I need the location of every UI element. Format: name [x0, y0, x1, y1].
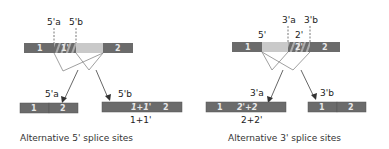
site-label-5a: 5'a	[47, 17, 61, 27]
svg-text:1: 1	[31, 104, 37, 113]
product-3a: 1 2'+2 2+2'	[206, 102, 286, 125]
site-label-3a: 3'a	[282, 15, 296, 25]
svg-text:1+1': 1+1'	[131, 103, 151, 112]
svg-text:2'+2: 2'+2	[237, 103, 258, 112]
intron-region	[76, 43, 103, 53]
site-label-5b: 5'b	[69, 17, 83, 27]
exon-1-label: 1	[245, 43, 251, 52]
arrow-label-3b: 3'b	[320, 88, 334, 98]
exon-2-label: 2	[322, 43, 328, 52]
site-label-2prime: 2'	[295, 30, 303, 40]
product-5b: 1+1' 2 1+1'	[102, 102, 182, 125]
svg-text:2: 2	[163, 103, 169, 112]
arrowhead-5a	[61, 96, 67, 103]
exon-1-label: 1	[37, 44, 43, 53]
svg-text:2: 2	[348, 103, 354, 112]
pre-mrna-right: 1 2' 2	[232, 42, 340, 52]
arrow-5b	[96, 70, 108, 98]
product-3b: 1 2	[308, 102, 366, 112]
arrow-3b	[301, 70, 314, 97]
exon-2-label: 2	[115, 44, 121, 53]
splice-line-5b	[76, 53, 103, 70]
caption-5prime: Alternative 5' splice sites	[20, 133, 133, 143]
arrow-5a	[64, 70, 78, 100]
site-label-3b: 3'b	[304, 15, 318, 25]
site-label-5prime: 5'	[258, 30, 266, 40]
annotation-1plus1prime: 1+1'	[130, 115, 151, 125]
arrowhead-5b	[105, 94, 111, 101]
caption-3prime: Alternative 3' splice sites	[228, 133, 341, 143]
product-5a: 1 2	[20, 103, 78, 113]
alt-region-label: 2'	[295, 43, 303, 52]
svg-text:1: 1	[319, 103, 325, 112]
svg-text:1: 1	[217, 103, 223, 112]
splicing-diagram: 5'a 5'b 1 1' 2 5'a 5'b 1 2	[0, 0, 389, 149]
annotation-2plus2prime: 2+2'	[241, 115, 262, 125]
intron-region	[262, 42, 288, 52]
arrow-label-5b: 5'b	[118, 89, 132, 99]
arrowhead-3b	[311, 93, 317, 100]
arrow-3a	[270, 70, 283, 100]
left-panel: 5'a 5'b 1 1' 2 5'a 5'b 1 2	[20, 17, 182, 143]
arrow-label-5a: 5'a	[45, 89, 59, 99]
pre-mrna-left: 1 1' 2	[24, 43, 133, 53]
arrow-label-3a: 3'a	[250, 88, 264, 98]
alt-region-label: 1'	[61, 44, 69, 53]
right-panel: 3'a 3'b 5' 2' 1 2' 2 3'a 3'b 1 2'+2 2+2'	[206, 15, 366, 143]
svg-text:2: 2	[60, 104, 66, 113]
